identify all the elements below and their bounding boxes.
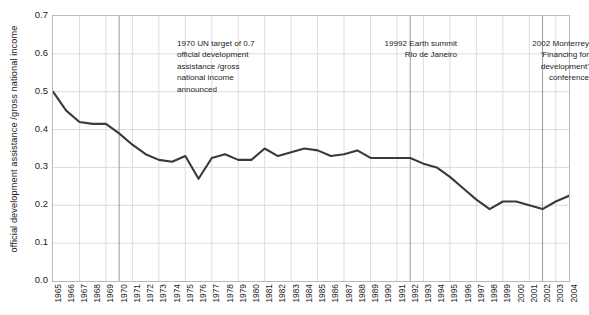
x-axis-tick-label: 1995 bbox=[449, 290, 459, 303]
x-axis-tick-label: 1989 bbox=[370, 290, 380, 303]
vertical-gridlines bbox=[79, 16, 555, 281]
x-axis-tick-label: 1966 bbox=[65, 290, 75, 303]
x-axis-tick-label: 2000 bbox=[515, 290, 525, 303]
x-axis-tick-label: 1971 bbox=[131, 290, 141, 303]
x-axis-tick-label: 1978 bbox=[224, 290, 234, 303]
x-axis-tick-label: 1994 bbox=[436, 290, 446, 303]
annotation-2002-monterrey: 2002 Monterrey ‘Financing for developmen… bbox=[493, 38, 589, 84]
plot-area: 1970 UN target of 0.7 official developme… bbox=[52, 15, 570, 282]
x-axis-tick-label: 1988 bbox=[356, 290, 366, 303]
x-axis-tick-label: 2002 bbox=[542, 290, 552, 303]
y-axis-tick-label: 0.4 bbox=[22, 124, 48, 134]
x-axis-tick-label: 1979 bbox=[237, 290, 247, 303]
x-axis-tick-label: 1993 bbox=[422, 290, 432, 303]
x-axis-tick-label: 1984 bbox=[303, 290, 313, 303]
x-axis-tick-label: 1999 bbox=[502, 290, 512, 303]
x-axis-tick-label: 1983 bbox=[290, 290, 300, 303]
x-axis-tick-label: 2001 bbox=[528, 290, 538, 303]
x-axis-tick-label: 1987 bbox=[343, 290, 353, 303]
y-axis-tick-label: 0.0 bbox=[22, 275, 48, 285]
x-axis-tick-label: 1991 bbox=[396, 290, 406, 303]
x-axis-tick-label: 1992 bbox=[409, 290, 419, 303]
x-axis-tick-label: 1972 bbox=[145, 290, 155, 303]
y-axis-tick-label: 0.1 bbox=[22, 237, 48, 247]
x-axis-tick-label: 1977 bbox=[211, 290, 221, 303]
x-axis-tick-label: 1998 bbox=[489, 290, 499, 303]
x-axis-tick-label: 1967 bbox=[78, 290, 88, 303]
annotation-1992-earth-summit: 19992 Earth summit Rio de Janeiro bbox=[341, 38, 457, 61]
y-axis-tick-label: 0.7 bbox=[22, 10, 48, 20]
x-axis-tick-label: 1976 bbox=[198, 290, 208, 303]
x-axis-tick-label: 1969 bbox=[105, 290, 115, 303]
y-axis-tick-label: 0.3 bbox=[22, 161, 48, 171]
chart-svg bbox=[53, 16, 569, 281]
x-axis-tick-label: 1980 bbox=[250, 290, 260, 303]
x-axis-tick-label: 1982 bbox=[277, 290, 287, 303]
x-axis-tick-label: 1985 bbox=[317, 290, 327, 303]
x-axis-tick-label: 2004 bbox=[568, 290, 578, 303]
y-axis-tick-label: 0.6 bbox=[22, 48, 48, 58]
x-axis-tick-label: 1996 bbox=[462, 290, 472, 303]
x-axis-tick-label: 1981 bbox=[264, 290, 274, 303]
x-axis-tick-label: 1968 bbox=[92, 290, 102, 303]
y-axis-tick-labels: 0.70.60.50.40.30.20.10.0 bbox=[18, 0, 48, 290]
x-axis-tick-label: 1990 bbox=[383, 290, 393, 303]
x-axis-tick-label: 1974 bbox=[171, 290, 181, 303]
x-axis-tick-label: 1965 bbox=[52, 290, 62, 303]
y-axis-tick-label: 0.5 bbox=[22, 86, 48, 96]
x-axis-tick-label: 1975 bbox=[184, 290, 194, 303]
data-series-line bbox=[53, 92, 569, 209]
x-axis-tick-label: 2003 bbox=[555, 290, 565, 303]
x-axis-tick-label: 1986 bbox=[330, 290, 340, 303]
y-axis-tick-label: 0.2 bbox=[22, 199, 48, 209]
x-axis-tick-label: 1970 bbox=[118, 290, 128, 303]
x-axis-tick-labels: 1965196619671968196919701971197219731974… bbox=[52, 283, 568, 315]
annotation-1970-un-target: 1970 UN target of 0.7 official developme… bbox=[177, 38, 297, 95]
x-axis-tick-label: 1973 bbox=[158, 290, 168, 303]
x-axis-tick-label: 1997 bbox=[475, 290, 485, 303]
